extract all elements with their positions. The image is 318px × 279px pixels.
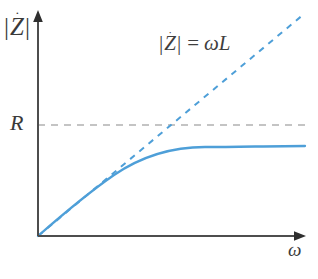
impedance-curve <box>38 159 176 236</box>
y-axis-arrowhead <box>33 10 43 22</box>
impedance-curve-solid <box>38 146 305 236</box>
annotation-omega: ω <box>204 31 219 55</box>
r-tick-label: R <box>10 112 23 134</box>
y-label-symbol-group: ˙Z <box>10 14 24 39</box>
equation-annotation: |˙Z|=ωL <box>158 33 230 54</box>
y-label-dot-accent: ˙ <box>15 9 20 25</box>
impedance-magnitude-figure: |˙Z| R ω |˙Z|=ωL <box>0 0 318 279</box>
annotation-symbol-group: ˙Z <box>164 33 176 54</box>
annotation-equals: = <box>182 31 204 55</box>
annotation-inductance: L <box>219 31 231 55</box>
annotation-dot-accent: ˙ <box>168 29 172 42</box>
y-axis-label: |˙Z| <box>3 14 31 39</box>
x-axis-label: ω <box>288 240 301 259</box>
y-label-bar-left: | <box>3 13 10 40</box>
y-label-bar-right: | <box>24 13 31 40</box>
